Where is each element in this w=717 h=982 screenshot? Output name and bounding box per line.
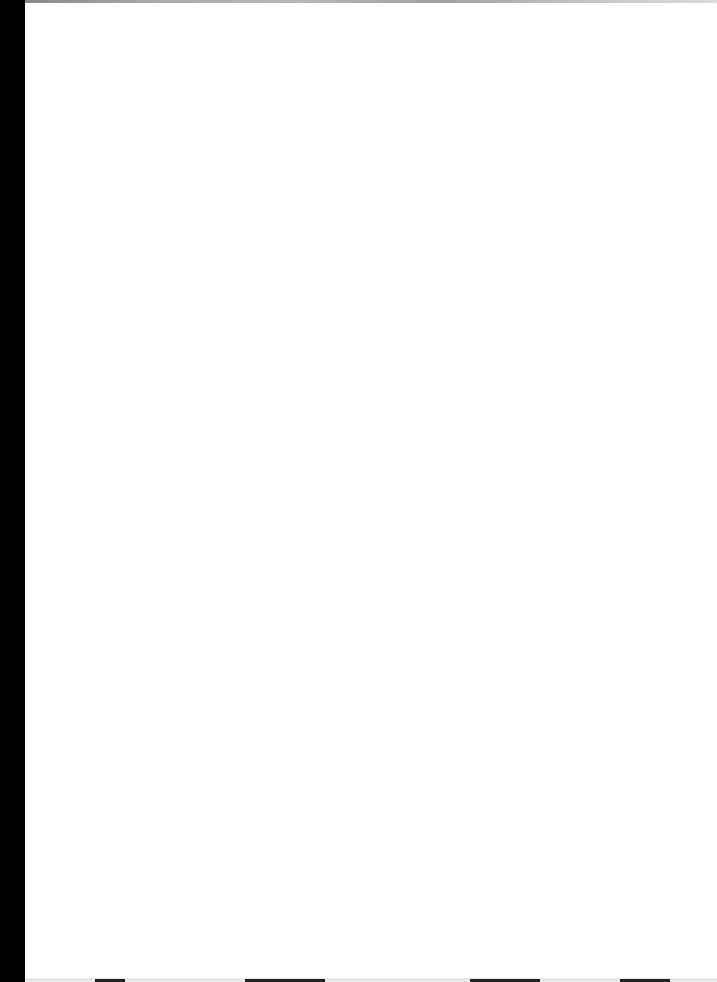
scan-edge-top — [25, 0, 717, 3]
scan-edge-bottom — [25, 978, 717, 982]
scan-edge-left — [0, 0, 25, 982]
blank-page — [25, 0, 717, 982]
